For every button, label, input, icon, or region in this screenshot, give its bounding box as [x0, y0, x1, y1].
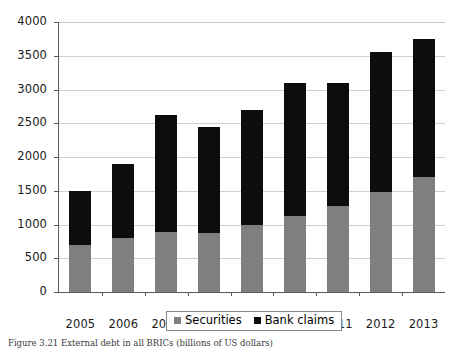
- bar-segment-securities[interactable]: [155, 232, 177, 292]
- y-axis-tick-label: 500: [1, 252, 47, 264]
- y-axis-tick: [54, 123, 59, 124]
- y-axis-tick-label: 4000: [1, 16, 47, 28]
- bar-segment-securities[interactable]: [69, 245, 91, 292]
- bar-segment-securities[interactable]: [112, 238, 134, 292]
- x-axis-tick: [102, 292, 103, 296]
- bar-segment-bank-claims[interactable]: [284, 83, 306, 215]
- legend-label-bank-claims: Bank claims: [265, 314, 335, 327]
- bar-2010[interactable]: [284, 22, 306, 292]
- bar-segment-bank-claims[interactable]: [327, 83, 349, 206]
- y-axis-tick-label: 1000: [1, 219, 47, 231]
- bar-2007[interactable]: [155, 22, 177, 292]
- y-axis-tick: [54, 292, 59, 293]
- x-axis-tick: [316, 292, 317, 296]
- x-axis-tick: [273, 292, 274, 296]
- bar-segment-securities[interactable]: [370, 192, 392, 292]
- bar-segment-bank-claims[interactable]: [69, 191, 91, 246]
- y-axis-tick: [54, 191, 59, 192]
- y-axis-tick-label: 2000: [1, 151, 47, 163]
- plot-area: 0500100015002000250030003500400020052006…: [58, 22, 445, 293]
- figure-caption: Figure 3.21 External debt in all BRICs (…: [8, 338, 448, 348]
- bar-2005[interactable]: [69, 22, 91, 292]
- x-axis-tick: [188, 292, 189, 296]
- y-axis-tick: [54, 258, 59, 259]
- bar-segment-securities[interactable]: [413, 177, 435, 292]
- legend-swatch-bank-claims-icon: [254, 317, 261, 324]
- legend-item-securities[interactable]: Securities: [174, 314, 242, 327]
- y-axis-tick: [54, 157, 59, 158]
- legend-item-bank-claims[interactable]: Bank claims: [254, 314, 335, 327]
- bar-segment-bank-claims[interactable]: [241, 110, 263, 224]
- y-axis-tick-label: 0: [1, 286, 47, 298]
- chart-legend: Securities Bank claims: [166, 311, 342, 331]
- x-axis-tick: [402, 292, 403, 296]
- y-axis-tick: [54, 22, 59, 23]
- bar-2009[interactable]: [241, 22, 263, 292]
- y-axis-tick: [54, 56, 59, 57]
- x-axis-tick: [231, 292, 232, 296]
- y-axis-tick: [54, 225, 59, 226]
- bar-segment-bank-claims[interactable]: [370, 52, 392, 192]
- bar-segment-bank-claims[interactable]: [155, 115, 177, 232]
- bar-2006[interactable]: [112, 22, 134, 292]
- bar-2008[interactable]: [198, 22, 220, 292]
- bar-segment-securities[interactable]: [241, 225, 263, 293]
- bar-2012[interactable]: [370, 22, 392, 292]
- x-axis-label-2013: 2013: [400, 318, 448, 330]
- y-axis-tick-label: 2500: [1, 117, 47, 129]
- x-axis-label-2012: 2012: [357, 318, 405, 330]
- bar-segment-securities[interactable]: [198, 233, 220, 292]
- x-axis-label-2006: 2006: [99, 318, 147, 330]
- y-axis-tick-label: 1500: [1, 185, 47, 197]
- bar-2011[interactable]: [327, 22, 349, 292]
- bar-2013[interactable]: [413, 22, 435, 292]
- x-axis-label-2005: 2005: [56, 318, 104, 330]
- bar-segment-bank-claims[interactable]: [112, 164, 134, 238]
- legend-label-securities: Securities: [185, 314, 242, 327]
- y-axis-tick-label: 3000: [1, 84, 47, 96]
- bar-segment-bank-claims[interactable]: [413, 39, 435, 177]
- x-axis-tick: [145, 292, 146, 296]
- legend-swatch-securities-icon: [174, 317, 181, 324]
- bar-segment-securities[interactable]: [327, 206, 349, 292]
- y-axis-tick: [54, 90, 59, 91]
- y-axis-tick-label: 3500: [1, 50, 47, 62]
- bar-segment-bank-claims[interactable]: [198, 127, 220, 233]
- bar-segment-securities[interactable]: [284, 216, 306, 292]
- x-axis-tick: [359, 292, 360, 296]
